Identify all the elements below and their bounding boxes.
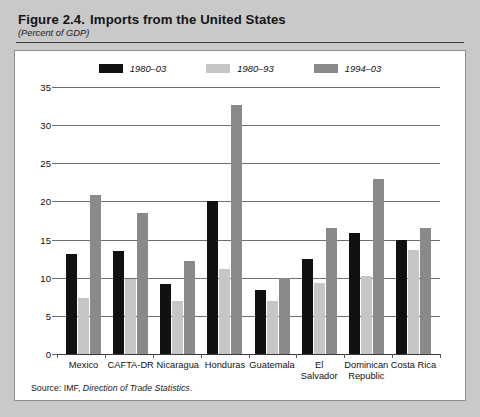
chart-legend: 1980–031980–931994–03: [15, 63, 465, 74]
bar: [207, 201, 218, 354]
x-axis-category-line: Nicaragua: [154, 360, 201, 371]
x-axis-category-label: Nicaragua: [154, 360, 201, 382]
x-axis-category-label: Honduras: [201, 360, 248, 382]
x-axis-tick: [296, 354, 297, 358]
bar-group: [249, 87, 296, 354]
y-axis-tick-label: 25: [40, 158, 51, 169]
source-publication: Direction of Trade Statistics: [83, 383, 190, 393]
x-axis-category-label: DominicanRepublic: [343, 360, 390, 382]
x-axis-category-line: CAFTA-DR: [107, 360, 154, 371]
legend-swatch: [99, 64, 123, 73]
bar: [408, 250, 419, 354]
bar: [361, 276, 372, 354]
y-axis-tick-label: 35: [40, 82, 51, 93]
legend-label: 1994–03: [345, 63, 382, 74]
bar: [125, 279, 136, 354]
figure-title: Figure 2.4.Imports from the United State…: [18, 12, 466, 27]
y-axis-tick-label: 15: [40, 234, 51, 245]
bar: [184, 261, 195, 354]
bar-group: [201, 87, 248, 354]
bar: [420, 228, 431, 354]
source-suffix: .: [190, 383, 192, 393]
bar: [373, 179, 384, 354]
bar: [302, 259, 313, 354]
x-axis-tick: [392, 354, 393, 358]
bar: [326, 228, 337, 354]
x-axis-category-line: Mexico: [60, 360, 107, 371]
figure-page: Figure 2.4.Imports from the United State…: [0, 0, 480, 417]
bar-group: [60, 87, 107, 354]
bar: [90, 195, 101, 354]
x-axis-category-line: Costa Rica: [390, 360, 437, 371]
bar: [66, 254, 77, 354]
legend-swatch: [206, 64, 230, 73]
x-axis-category-label: El Salvador: [296, 360, 343, 382]
x-axis-tick: [105, 354, 106, 358]
x-axis-ticks: [57, 354, 440, 358]
bar: [267, 301, 278, 354]
bar: [279, 278, 290, 354]
bar: [396, 240, 407, 354]
y-axis-tick-label: 0: [46, 349, 51, 360]
x-axis-tick: [201, 354, 202, 358]
x-axis-category-line: Guatemala: [249, 360, 296, 371]
x-axis-tick: [249, 354, 250, 358]
figure-title-text: Imports from the United States: [90, 12, 286, 27]
bar: [113, 251, 124, 354]
bar: [349, 233, 360, 354]
bar-group: [154, 87, 201, 354]
bar-group: [343, 87, 390, 354]
x-axis-tick: [440, 354, 441, 358]
x-axis-category-label: Mexico: [60, 360, 107, 382]
x-axis-category-label: Costa Rica: [390, 360, 437, 382]
x-axis-category-line: Republic: [343, 371, 390, 382]
plot-area: 05101520253035: [57, 87, 440, 354]
bar: [137, 213, 148, 354]
bar: [231, 105, 242, 354]
x-axis-tick: [344, 354, 345, 358]
y-axis-tick-label: 30: [40, 120, 51, 131]
bar: [255, 290, 266, 354]
legend-item: 1994–03: [314, 63, 382, 74]
x-axis-tick: [57, 354, 58, 358]
source-note: Source: IMF, Direction of Trade Statisti…: [31, 383, 192, 393]
x-axis-category-line: Honduras: [201, 360, 248, 371]
legend-item: 1980–03: [99, 63, 167, 74]
figure-number: Figure 2.4.: [18, 12, 85, 27]
bar: [314, 283, 325, 354]
bar-group: [296, 87, 343, 354]
figure-subtitle: (Percent of GDP): [18, 28, 466, 38]
legend-swatch: [314, 64, 338, 73]
y-axis-tick-label: 5: [46, 310, 51, 321]
chart-panel: 1980–031980–931994–03 05101520253035 Mex…: [14, 50, 466, 401]
x-axis-category-line: Dominican: [343, 360, 390, 371]
legend-label: 1980–03: [130, 63, 167, 74]
x-axis-category-label: Guatemala: [249, 360, 296, 382]
y-axis-tick-label: 20: [40, 196, 51, 207]
legend-item: 1980–93: [206, 63, 274, 74]
x-axis-tick: [153, 354, 154, 358]
bar: [172, 301, 183, 354]
y-axis-tick-label: 10: [40, 272, 51, 283]
bar: [78, 298, 89, 354]
bar-groups: [57, 87, 440, 354]
bar-group: [390, 87, 437, 354]
x-axis-category-line: El Salvador: [296, 360, 343, 382]
bar-group: [107, 87, 154, 354]
bar: [219, 269, 230, 354]
legend-label: 1980–93: [237, 63, 274, 74]
x-axis-category-label: CAFTA-DR: [107, 360, 154, 382]
source-prefix: Source: IMF,: [31, 383, 80, 393]
title-divider: [16, 42, 464, 43]
bar: [160, 284, 171, 354]
